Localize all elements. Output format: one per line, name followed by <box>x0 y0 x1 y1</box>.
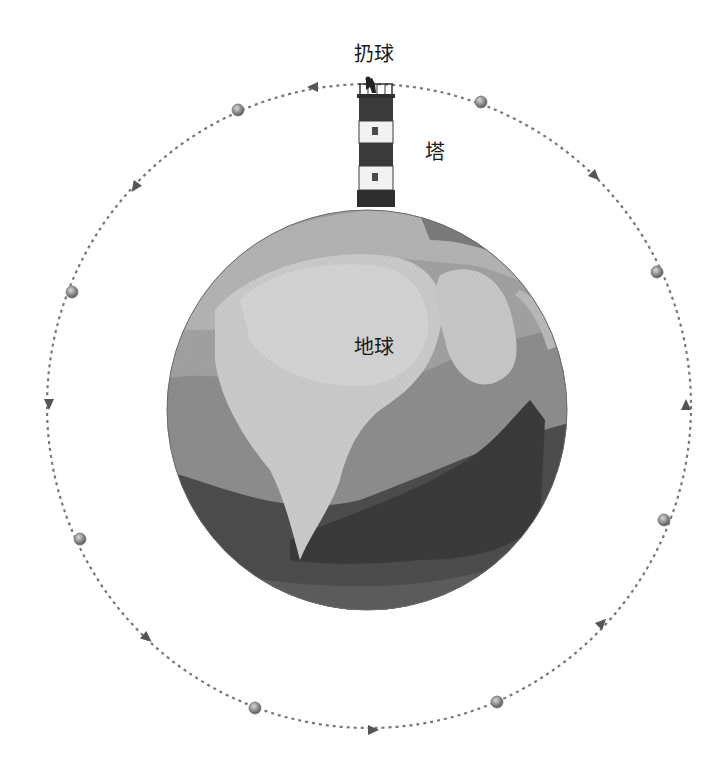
ball-icon <box>249 702 261 714</box>
ball-icon <box>475 96 487 108</box>
lighthouse-tower <box>357 77 395 208</box>
earth-label: 地球 <box>354 337 394 357</box>
arrow-icon <box>595 615 610 630</box>
ball-icon <box>658 514 670 526</box>
ball-icon <box>66 286 78 298</box>
window-icon <box>372 127 378 135</box>
earth-orbit-diagram <box>0 0 725 770</box>
ball-icon <box>232 104 244 116</box>
ball-icon <box>74 533 86 545</box>
earth-globe <box>160 200 580 620</box>
window-icon <box>372 173 378 181</box>
arrow-icon <box>127 180 142 195</box>
arrow-icon <box>681 399 691 410</box>
ball-icon <box>651 266 663 278</box>
tower-label: 塔 <box>425 142 445 162</box>
arrow-icon <box>44 399 54 410</box>
arrow-icon <box>307 82 318 92</box>
arrow-icon <box>368 725 379 735</box>
throw-label: 扔球 <box>354 44 394 64</box>
ball-icon <box>491 696 503 708</box>
